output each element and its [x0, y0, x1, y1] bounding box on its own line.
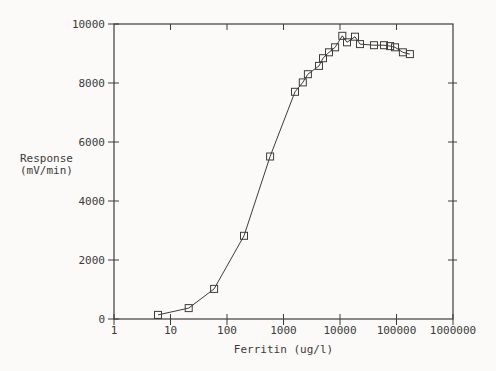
x-tick-label: 1 — [111, 324, 118, 337]
y-axis-label: Response (mV/min) — [20, 153, 73, 177]
plot-area: 1101001000100001000001000000020004000600… — [0, 0, 496, 371]
y-tick-label: 10000 — [72, 18, 105, 31]
axis-frame — [114, 24, 453, 319]
y-tick-label: 4000 — [79, 195, 106, 208]
x-tick-label: 100000 — [377, 324, 417, 337]
data-line — [158, 36, 410, 315]
chart: 1101001000100001000001000000020004000600… — [0, 0, 496, 371]
x-tick-label: 1000 — [270, 324, 297, 337]
x-tick-label: 10000 — [323, 324, 356, 337]
y-tick-label: 8000 — [79, 77, 106, 90]
y-tick-label: 2000 — [79, 254, 106, 267]
x-axis-label: Ferritin (ug/l) — [114, 344, 453, 356]
data-points — [155, 32, 414, 318]
x-tick-label: 1000000 — [430, 324, 476, 337]
y-tick-label: 6000 — [79, 136, 106, 149]
tick-labels: 1101001000100001000001000000020004000600… — [72, 18, 476, 337]
x-tick-label: 100 — [217, 324, 237, 337]
x-tick-label: 10 — [164, 324, 177, 337]
y-tick-label: 0 — [98, 313, 105, 326]
axis-ticks — [108, 24, 457, 325]
